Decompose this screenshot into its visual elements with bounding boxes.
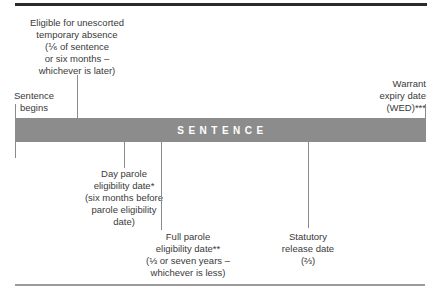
bottom-rule <box>15 284 425 286</box>
top-rule <box>15 3 427 6</box>
label-line: Sentence <box>14 90 54 102</box>
label-line: expiry date <box>372 90 426 102</box>
label-statutory-release-date: Statutory release date (⅔) <box>268 231 348 267</box>
label-line: begins <box>14 102 54 114</box>
label-unescorted-temporary-absence: Eligible for unescorted temporary absenc… <box>22 17 132 77</box>
sentence-bar-label: SENTENCE <box>173 125 267 136</box>
label-full-parole-eligibility: Full parole eligibility date** (⅓ or sev… <box>132 231 244 279</box>
label-line: Eligible for unescorted <box>22 17 132 29</box>
label-line: whichever is less) <box>132 267 244 279</box>
label-warrant-expiry-date: Warrant expiry date (WED)*** <box>372 78 426 114</box>
sentence-bar: SENTENCE <box>15 118 426 142</box>
statutory-release-connector-line <box>308 142 309 228</box>
label-line: Full parole <box>132 231 244 243</box>
label-line: (⅙ of sentence <box>22 41 132 53</box>
sentence-begins-tick-top <box>15 104 16 118</box>
label-sentence-begins: Sentence begins <box>14 90 54 114</box>
label-line: eligibility date** <box>132 243 244 255</box>
label-line: (WED)*** <box>372 102 426 114</box>
label-line: (⅓ or seven years – <box>132 255 244 267</box>
label-line: Statutory <box>268 231 348 243</box>
uta-connector-line <box>77 75 78 118</box>
label-line: Warrant <box>372 78 426 90</box>
label-line: temporary absence <box>22 29 132 41</box>
label-line: or six months – <box>22 53 132 65</box>
label-line: (⅔) <box>268 255 348 267</box>
day-parole-connector-line <box>124 142 125 168</box>
label-line: release date <box>268 243 348 255</box>
wed-tick <box>425 104 426 118</box>
full-parole-connector-line <box>161 142 162 230</box>
sentence-begins-tick-bottom <box>15 142 16 158</box>
